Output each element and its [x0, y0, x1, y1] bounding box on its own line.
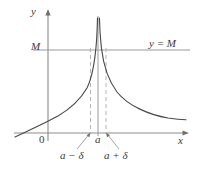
leader-a-minus-delta	[77, 133, 91, 149]
bound-value-label: M	[31, 41, 40, 52]
left-bound-label: a − δ	[60, 150, 84, 161]
right-bound-label: a + δ	[104, 150, 128, 161]
curve-left-branch	[15, 18, 98, 137]
asymptote-figure: y x M y = M 0 a a − δ a + δ	[0, 0, 197, 171]
leader-a-plus-delta	[106, 133, 119, 149]
x-axis-label: x	[178, 135, 183, 146]
y-axis-label: y	[31, 6, 36, 17]
bound-line-label: y = M	[149, 38, 176, 49]
figure-canvas	[0, 0, 197, 171]
center-point-label: a	[95, 134, 101, 145]
origin-label: 0	[39, 134, 45, 145]
curve-right-branch	[99, 18, 186, 120]
